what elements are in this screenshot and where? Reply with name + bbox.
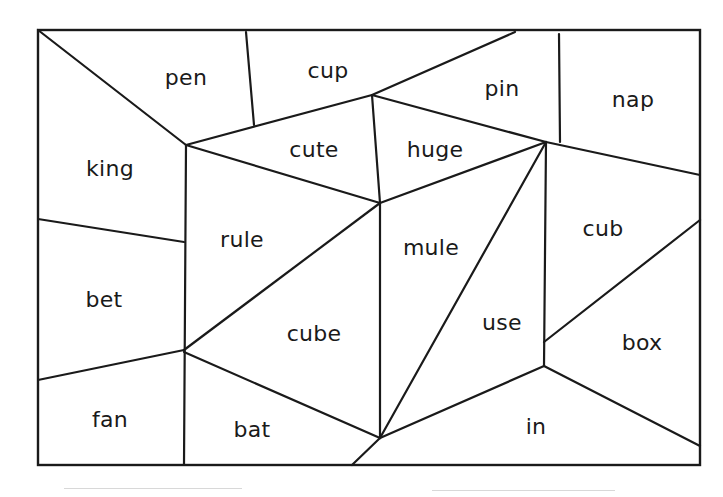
divider-line xyxy=(186,145,380,203)
divider-line xyxy=(38,350,184,380)
word-in: in xyxy=(526,414,547,439)
divider-line xyxy=(380,142,546,438)
divider-line xyxy=(38,219,184,242)
divider-line xyxy=(544,366,700,446)
divider-line xyxy=(372,95,546,142)
divider-line xyxy=(352,438,380,465)
word-huge: huge xyxy=(407,137,464,162)
word-fan: fan xyxy=(92,407,128,432)
word-rule: rule xyxy=(220,227,264,252)
word-cup: cup xyxy=(308,58,349,83)
divider-line xyxy=(546,142,700,175)
faint-underline xyxy=(64,488,242,489)
word-pin: pin xyxy=(485,76,520,101)
divider-line xyxy=(184,145,186,465)
word-bet: bet xyxy=(85,287,122,312)
faint-underline xyxy=(432,490,615,491)
divider-line xyxy=(559,34,560,142)
word-pen: pen xyxy=(165,65,207,90)
word-nap: nap xyxy=(612,87,654,112)
divider-line xyxy=(38,30,186,145)
divider-line xyxy=(246,32,254,125)
divider-line xyxy=(184,203,380,350)
region-dividers xyxy=(38,30,700,465)
word-use: use xyxy=(482,310,522,335)
divider-line xyxy=(186,95,372,145)
word-box: box xyxy=(622,330,663,355)
word-king: king xyxy=(86,156,134,181)
word-bat: bat xyxy=(234,417,271,442)
divider-line xyxy=(544,142,546,366)
word-mule: mule xyxy=(403,235,459,260)
divider-line xyxy=(372,95,380,203)
word-cube: cube xyxy=(287,321,342,346)
word-cute: cute xyxy=(289,137,338,162)
divider-line xyxy=(380,366,544,438)
divider-line xyxy=(184,352,380,438)
word-cub: cub xyxy=(583,216,624,241)
